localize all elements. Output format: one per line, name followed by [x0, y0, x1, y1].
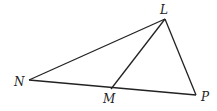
- segment-LP: [165, 19, 196, 95]
- label-M: M: [102, 92, 116, 106]
- label-P: P: [200, 90, 210, 104]
- triangle-diagram: L N M P: [0, 0, 217, 111]
- segment-LM: [111, 19, 165, 89]
- label-N: N: [13, 75, 25, 89]
- label-L: L: [159, 3, 168, 17]
- segment-NL: [29, 19, 165, 80]
